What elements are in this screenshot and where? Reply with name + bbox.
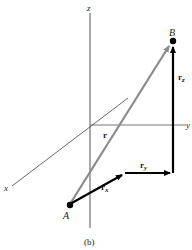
z-axis-label: z (86, 3, 91, 13)
point-a-label: A (62, 210, 70, 221)
x-axis-label: x (3, 183, 8, 193)
figure-caption: (b) (84, 237, 95, 247)
vector-r-z-label: rz (178, 72, 185, 84)
y-axis-label: y (185, 120, 190, 130)
vector-diagram: z y x B A r rx ry rz (b) (0, 0, 192, 250)
point-b-label: B (169, 27, 175, 38)
x-axis (12, 98, 128, 186)
vector-r-y-label: ry (140, 160, 148, 172)
point-b (170, 38, 176, 44)
point-a (67, 202, 73, 208)
vector-r-label: r (103, 130, 107, 140)
